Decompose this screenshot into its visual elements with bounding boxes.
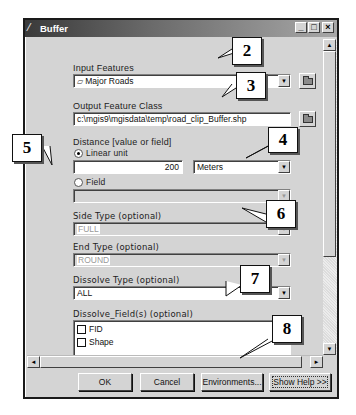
distance-label: Distance [value or field] — [73, 137, 172, 147]
callout-6: 6 — [266, 200, 296, 228]
scroll-down-arrow-icon[interactable]: ▼ — [323, 343, 336, 355]
folder-icon — [303, 78, 313, 85]
side-type-label: Side Type (optional) — [73, 211, 161, 221]
dissolve-fields-list[interactable]: FID Shape — [73, 320, 291, 355]
shape-label: Shape — [89, 337, 114, 347]
distance-value-input[interactable]: 200 — [73, 160, 183, 174]
chevron-down-icon[interactable]: ▼ — [278, 254, 290, 266]
browse-input-button[interactable] — [299, 73, 316, 89]
side-type-value: FULL — [77, 224, 100, 234]
end-type-label: End Type (optional) — [73, 242, 159, 252]
ok-button[interactable]: OK — [78, 373, 132, 391]
distance-field-dropdown[interactable]: ▼ — [73, 189, 291, 203]
callout-5: 5 — [12, 134, 42, 162]
show-help-button[interactable]: Show Help >> — [269, 373, 331, 391]
callout-7: 7 — [240, 265, 270, 293]
input-features-label: Input Features — [73, 63, 134, 73]
end-type-value: ROUND — [77, 255, 110, 265]
chevron-down-icon[interactable]: ▼ — [278, 161, 290, 173]
input-features-value: Major Roads — [85, 76, 133, 86]
side-type-dropdown[interactable]: FULL ▼ — [73, 222, 291, 236]
horizontal-scroll-thumb[interactable] — [40, 356, 302, 368]
vertical-scrollbar[interactable]: ▲ ▼ — [323, 39, 337, 355]
parameters-pane: Input Features ▱ Major Roads ▼ Output Fe… — [27, 39, 323, 355]
close-button[interactable]: × — [322, 22, 334, 33]
chevron-down-icon[interactable]: ▼ — [278, 287, 290, 299]
window-title: Buffer — [40, 23, 68, 34]
folder-icon — [303, 116, 313, 123]
scroll-left-arrow-icon[interactable]: ◄ — [27, 356, 40, 368]
linear-unit-radio[interactable] — [74, 149, 83, 158]
fid-checkbox[interactable] — [77, 325, 86, 334]
vertical-scroll-thumb[interactable] — [323, 51, 336, 257]
dissolve-type-value: ALL — [77, 288, 92, 298]
scroll-up-arrow-icon[interactable]: ▲ — [323, 39, 336, 51]
cancel-button[interactable]: Cancel — [140, 373, 194, 391]
field-label: Field — [86, 177, 105, 187]
chevron-down-icon[interactable]: ▼ — [278, 75, 290, 87]
distance-unit-dropdown[interactable]: Meters ▼ — [193, 160, 291, 174]
browse-output-button[interactable] — [299, 111, 316, 127]
callout-4: 4 — [268, 127, 298, 153]
field-radio[interactable] — [74, 178, 83, 187]
fid-label: FID — [89, 324, 103, 334]
scroll-corner — [323, 355, 337, 367]
title-bar[interactable]: ⁄ Buffer _ □ × — [25, 20, 337, 37]
dissolve-type-label: Dissolve Type (optional) — [73, 275, 179, 285]
maximize-button[interactable]: □ — [308, 22, 320, 33]
environments-button[interactable]: Environments... — [201, 373, 263, 391]
polyline-layer-icon: ▱ — [77, 77, 85, 86]
output-feature-class-input[interactable]: c:\mgis9\mgisdata\temp\road_clip_Buffer.… — [73, 112, 291, 126]
linear-unit-label: Linear unit — [86, 148, 128, 158]
horizontal-scrollbar[interactable]: ◄ ► — [27, 355, 323, 367]
minimize-button[interactable]: _ — [295, 22, 307, 33]
callout-3: 3 — [236, 72, 266, 99]
callout-2: 2 — [232, 37, 262, 65]
shape-checkbox[interactable] — [77, 338, 86, 347]
toolbox-tool-icon: ⁄ — [28, 22, 40, 34]
callout-8: 8 — [272, 315, 302, 343]
scroll-right-arrow-icon[interactable]: ► — [310, 356, 323, 368]
dissolve-fields-label: Dissolve_Field(s) (optional) — [73, 309, 193, 319]
distance-unit-value: Meters — [197, 162, 223, 172]
output-feature-class-label: Output Feature Class — [73, 101, 163, 111]
